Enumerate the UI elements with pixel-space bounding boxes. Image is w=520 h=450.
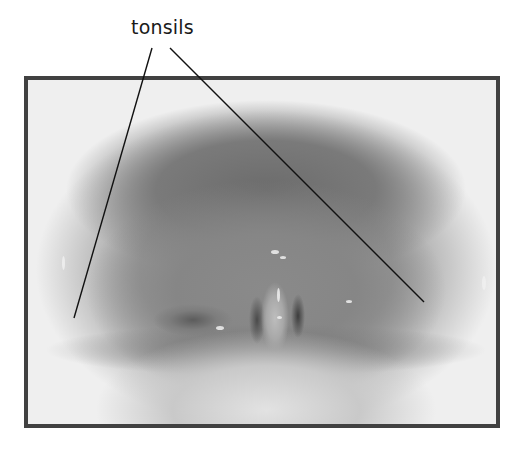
mouth-photo (28, 80, 496, 424)
tissue-glint (482, 276, 486, 290)
tissue-glint (346, 300, 352, 303)
uvula-glint (277, 288, 280, 302)
uvula-glint (271, 250, 279, 254)
tonsils-label: tonsils (131, 15, 194, 39)
tissue-glint (216, 326, 224, 330)
mouth-photo-frame (24, 76, 500, 428)
uvula-glint (280, 256, 286, 259)
uvula-glint (277, 316, 282, 319)
tissue-glint (62, 256, 65, 270)
